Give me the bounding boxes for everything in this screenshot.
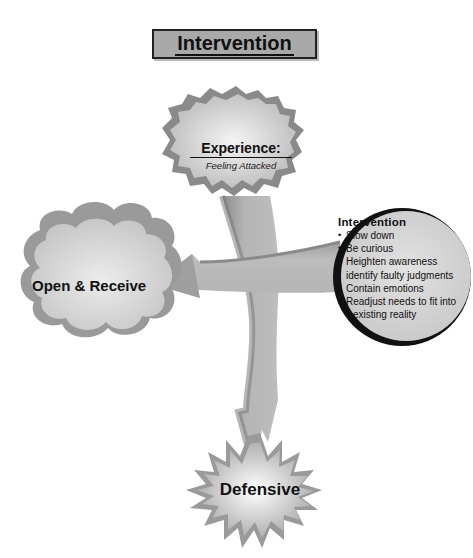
list-item: identify faulty judgments bbox=[338, 269, 473, 282]
list-item: Readjust needs to fit intoexisting reali… bbox=[338, 295, 473, 321]
title-box: Intervention bbox=[152, 29, 317, 59]
arrow-down-icon bbox=[222, 196, 279, 470]
intervention-list: Slow down Be curious Heighten awareness … bbox=[338, 229, 473, 321]
defensive-label: Defensive bbox=[210, 480, 310, 500]
list-item: Be curious bbox=[338, 242, 473, 255]
list-item: Slow down bbox=[338, 229, 473, 242]
experience-subtitle: Feeling Attacked bbox=[190, 160, 292, 171]
intervention-heading: Intervention bbox=[338, 216, 473, 228]
list-item: Heighten awareness bbox=[338, 255, 473, 268]
open-receive-cloud-shape bbox=[21, 202, 182, 337]
intervention-panel: Intervention Slow down Be curious Height… bbox=[338, 216, 473, 321]
list-item: Contain emotions bbox=[338, 282, 473, 295]
page-title: Intervention bbox=[175, 33, 293, 56]
open-receive-label: Open & Receive bbox=[32, 277, 172, 294]
experience-title: Experience: bbox=[190, 140, 292, 158]
